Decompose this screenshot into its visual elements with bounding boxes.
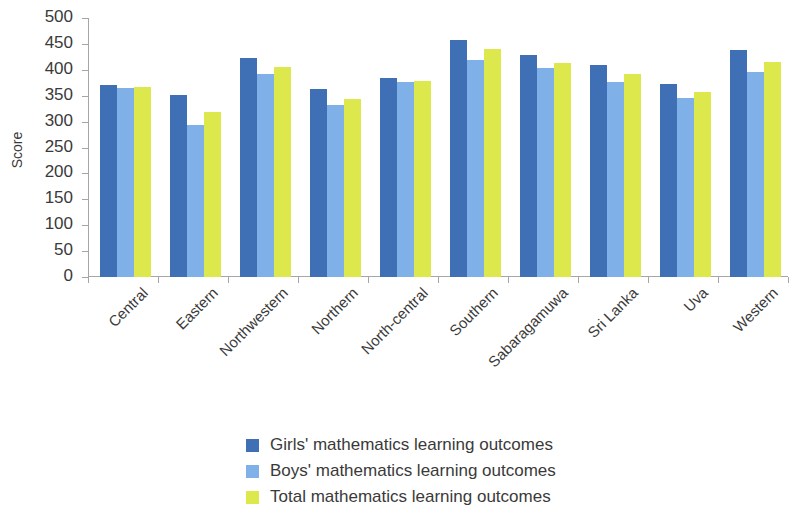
bar — [484, 49, 501, 277]
bar — [204, 112, 221, 277]
legend: Girls' mathematics learning outcomesBoys… — [246, 432, 686, 510]
y-axis-tick: 350 — [82, 96, 88, 97]
bar-group — [520, 18, 571, 277]
bar — [327, 105, 344, 277]
legend-swatch — [246, 491, 259, 504]
bar — [240, 58, 257, 277]
bar — [397, 82, 414, 277]
bar — [450, 40, 467, 277]
x-axis-tick — [648, 277, 649, 283]
bar-chart: Score 500450400350300250200150100500 Cen… — [0, 0, 805, 517]
x-axis-tick — [788, 277, 789, 283]
bar — [747, 72, 764, 277]
y-axis-tick-label: 400 — [13, 59, 73, 79]
bar — [467, 60, 484, 277]
bar-group — [380, 18, 431, 277]
x-axis-tick — [438, 277, 439, 283]
bar-group — [730, 18, 781, 277]
bar — [344, 99, 361, 277]
bar-group — [310, 18, 361, 277]
bar-group — [450, 18, 501, 277]
bar — [414, 81, 431, 277]
bar — [660, 84, 677, 277]
bar — [274, 67, 291, 277]
x-axis-tick — [298, 277, 299, 283]
bar — [310, 89, 327, 277]
legend-swatch — [246, 465, 259, 478]
bar — [257, 74, 274, 277]
bar-group — [660, 18, 711, 277]
x-axis-tick — [718, 277, 719, 283]
y-axis-tick-label: 50 — [13, 240, 73, 260]
x-axis-tick — [228, 277, 229, 283]
legend-swatch — [246, 439, 259, 452]
y-axis-tick: 150 — [82, 199, 88, 200]
x-axis-tick — [158, 277, 159, 283]
bar-group — [170, 18, 221, 277]
bar-group — [240, 18, 291, 277]
y-axis-tick-label: 0 — [13, 266, 73, 286]
y-axis-tick: 100 — [82, 225, 88, 226]
y-axis-tick: 50 — [82, 251, 88, 252]
bar — [134, 87, 151, 277]
plot-area: 500450400350300250200150100500 — [88, 18, 788, 277]
legend-label: Girls' mathematics learning outcomes — [270, 435, 553, 455]
bar — [764, 62, 781, 277]
bar-group — [100, 18, 151, 277]
y-axis-tick-label: 150 — [13, 188, 73, 208]
y-axis-tick-label: 450 — [13, 33, 73, 53]
bar — [590, 65, 607, 277]
bar-group — [590, 18, 641, 277]
legend-label: Boys' mathematics learning outcomes — [270, 461, 556, 481]
x-axis-tick — [368, 277, 369, 283]
x-axis-label: Eastern — [61, 284, 221, 444]
bar — [117, 88, 134, 277]
bar — [554, 63, 571, 277]
y-axis-tick-label: 350 — [13, 85, 73, 105]
y-axis-tick: 300 — [82, 122, 88, 123]
bar — [677, 98, 694, 277]
legend-label: Total mathematics learning outcomes — [270, 487, 551, 507]
bar — [730, 50, 747, 277]
y-axis-tick-label: 200 — [13, 162, 73, 182]
bar — [607, 82, 624, 277]
y-axis-tick-label: 250 — [13, 137, 73, 157]
y-axis-tick-label: 100 — [13, 214, 73, 234]
bar — [520, 55, 537, 277]
y-axis-tick-label: 500 — [13, 7, 73, 27]
y-axis-tick: 450 — [82, 44, 88, 45]
y-axis-tick: 250 — [82, 148, 88, 149]
y-axis-tick: 400 — [82, 70, 88, 71]
legend-item[interactable]: Boys' mathematics learning outcomes — [246, 458, 686, 484]
bar — [187, 125, 204, 277]
bar — [100, 85, 117, 277]
x-axis-tick — [88, 277, 89, 283]
bar — [170, 95, 187, 277]
legend-item[interactable]: Girls' mathematics learning outcomes — [246, 432, 686, 458]
x-axis-tick — [578, 277, 579, 283]
y-axis-tick: 200 — [82, 173, 88, 174]
x-axis-tick — [508, 277, 509, 283]
y-axis-tick: 500 — [82, 18, 88, 19]
y-axis-line — [88, 18, 89, 277]
bar — [380, 78, 397, 277]
bar — [624, 74, 641, 277]
bar — [537, 68, 554, 277]
y-axis-tick-label: 300 — [13, 111, 73, 131]
bar — [694, 92, 711, 277]
legend-item[interactable]: Total mathematics learning outcomes — [246, 484, 686, 510]
